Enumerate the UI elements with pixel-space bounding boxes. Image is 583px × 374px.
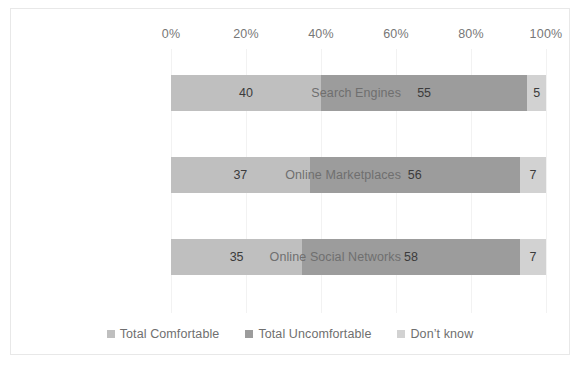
legend-swatch-icon: [245, 330, 253, 338]
legend-label: Total Comfortable: [120, 327, 220, 341]
gridline: [546, 49, 547, 313]
bar-segment-value-label: 5: [533, 86, 540, 100]
bar-segment[interactable]: 5: [527, 75, 546, 111]
bar-segment-value-label: 55: [417, 86, 431, 100]
bar-segment-value-label: 37: [233, 168, 247, 182]
chart-container: 0%20%40%60%80%100% 405553756735587 Total…: [10, 8, 570, 355]
x-axis-tick-label: 60%: [383, 27, 409, 41]
bar-segment[interactable]: 7: [520, 239, 546, 275]
x-axis-tick-label: 0%: [162, 27, 180, 41]
x-axis-tick-label: 20%: [233, 27, 259, 41]
bar-segment[interactable]: 7: [520, 157, 546, 193]
x-axis-tick-label: 80%: [458, 27, 484, 41]
legend-label: Don’t know: [410, 327, 473, 341]
bar-segment-value-label: 35: [230, 250, 244, 264]
x-axis: 0%20%40%60%80%100%: [11, 9, 569, 39]
category-label-2: Online Social Networks: [270, 250, 401, 264]
chart-legend: Total ComfortableTotal UncomfortableDon’…: [11, 327, 569, 341]
category-label-1: Online Marketplaces: [285, 168, 401, 182]
legend-item[interactable]: Total Comfortable: [107, 327, 220, 341]
legend-label: Total Uncomfortable: [258, 327, 371, 341]
x-axis-tick-label: 40%: [308, 27, 334, 41]
legend-swatch-icon: [107, 330, 115, 338]
bar-segment-value-label: 40: [239, 86, 253, 100]
bar-segment-value-label: 7: [529, 168, 536, 182]
legend-swatch-icon: [397, 330, 405, 338]
x-axis-tick-label: 100%: [530, 27, 563, 41]
bar-segment-value-label: 7: [529, 250, 536, 264]
legend-item[interactable]: Total Uncomfortable: [245, 327, 371, 341]
legend-item[interactable]: Don’t know: [397, 327, 473, 341]
bar-segment[interactable]: 40: [171, 75, 321, 111]
bar-segment-value-label: 56: [408, 168, 422, 182]
bar-segment-value-label: 58: [404, 250, 418, 264]
category-label-0: Search Engines: [311, 86, 401, 100]
